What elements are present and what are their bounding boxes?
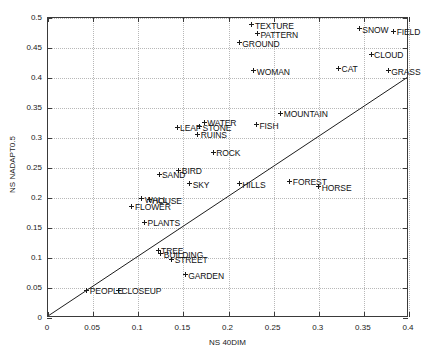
data-point-label: RUINS	[201, 130, 227, 140]
data-point-label: FISH	[259, 121, 278, 131]
data-point-marker	[391, 29, 396, 34]
data-point-label: PLANTS	[148, 218, 180, 228]
y-tick	[47, 318, 52, 319]
y-tick-label: 0.15	[6, 223, 42, 232]
y-tick-label: 0.1	[6, 253, 42, 262]
data-point-label: SAND	[162, 170, 185, 180]
y-tick-label: 0.05	[6, 283, 42, 292]
y-tick-label: 0.4	[6, 73, 42, 82]
y-tick-right	[403, 288, 408, 289]
y-tick	[47, 228, 52, 229]
x-tick-label: 0.4	[402, 323, 413, 332]
x-tick	[229, 312, 230, 317]
x-tick	[48, 312, 49, 317]
data-point-marker	[336, 66, 341, 71]
x-tick-top	[274, 17, 275, 22]
data-point-marker	[254, 122, 259, 127]
x-tick-top	[183, 17, 184, 22]
y-tick	[47, 168, 52, 169]
x-tick-top	[138, 17, 139, 22]
data-point-label: FIELD	[397, 27, 421, 37]
y-tick	[47, 288, 52, 289]
y-tick	[47, 78, 52, 79]
data-point-marker	[175, 125, 180, 130]
data-point-marker	[255, 31, 260, 36]
x-tick-top	[364, 17, 365, 22]
data-point-marker	[369, 52, 374, 57]
y-tick	[47, 108, 52, 109]
data-point-marker	[237, 40, 242, 45]
gridline-vertical	[409, 18, 410, 316]
data-point-marker	[84, 288, 89, 293]
y-tick	[47, 18, 52, 19]
data-point-marker	[142, 220, 147, 225]
y-tick-right	[403, 168, 408, 169]
data-point-marker	[157, 172, 162, 177]
data-point-label: FLOWER	[135, 202, 171, 212]
x-tick-label: 0.35	[355, 323, 371, 332]
x-tick-label: 0.15	[175, 323, 191, 332]
data-point-marker	[211, 150, 216, 155]
data-point-label: HORSE	[322, 183, 352, 193]
x-tick-label: 0.05	[84, 323, 100, 332]
y-axis-label: NS NADAPT0.5	[8, 120, 17, 210]
x-tick-label: 0.3	[312, 323, 323, 332]
x-tick	[409, 312, 410, 317]
y-tick	[47, 48, 52, 49]
data-point-marker	[129, 204, 134, 209]
data-point-marker	[278, 111, 283, 116]
data-point-marker	[156, 248, 161, 253]
y-tick	[47, 138, 52, 139]
data-point-label: MOUNTAIN	[284, 109, 328, 119]
data-point-marker	[237, 181, 242, 186]
x-tick	[274, 312, 275, 317]
data-point-marker	[287, 179, 292, 184]
x-tick	[183, 312, 184, 317]
data-point-label: SNOW	[362, 25, 388, 35]
data-point-marker	[357, 26, 362, 31]
x-tick-label: 0.25	[265, 323, 281, 332]
scatter-plot-figure: TEXTUREPATTERNGROUNDSNOWFIELDCLOUDCATGRA…	[0, 0, 428, 355]
x-tick	[319, 312, 320, 317]
data-point-label: LEAF	[180, 123, 201, 133]
data-series-layer: TEXTUREPATTERNGROUNDSNOWFIELDCLOUDCATGRA…	[48, 18, 407, 316]
data-point-label: CLOUD	[374, 50, 403, 60]
x-tick	[364, 312, 365, 317]
x-axis-label: NS 40DIM	[47, 338, 408, 347]
data-point-label: GROUND	[242, 39, 279, 49]
x-tick-label: 0	[45, 323, 49, 332]
data-point-marker	[249, 22, 254, 27]
y-tick-label: 0.35	[6, 103, 42, 112]
plot-area: TEXTUREPATTERNGROUNDSNOWFIELDCLOUDCATGRA…	[47, 17, 408, 317]
data-point-marker	[183, 272, 188, 277]
y-tick-right	[403, 18, 408, 19]
y-tick-right	[403, 198, 408, 199]
y-tick-label: 0.45	[6, 43, 42, 52]
data-point-label: CLOSEUP	[121, 286, 161, 296]
y-tick	[47, 258, 52, 259]
data-point-marker	[139, 196, 144, 201]
y-tick-label: 0.5	[6, 13, 42, 22]
x-tick	[93, 312, 94, 317]
y-tick-right	[403, 138, 408, 139]
y-tick-right	[403, 78, 408, 79]
data-point-marker	[386, 68, 391, 73]
x-tick-label: 0.1	[132, 323, 143, 332]
data-point-label: PEOPLE	[90, 286, 123, 296]
y-tick-right	[403, 48, 408, 49]
y-tick-right	[403, 258, 408, 259]
x-tick-top	[229, 17, 230, 22]
y-tick-right	[403, 108, 408, 109]
data-point-label: GARDEN	[188, 271, 224, 281]
data-point-label: STREET	[175, 255, 208, 265]
data-point-label: SKY	[193, 180, 210, 190]
data-point-marker	[251, 68, 256, 73]
data-point-label: ROCK	[216, 148, 240, 158]
y-tick-right	[403, 228, 408, 229]
data-point-label: CAT	[342, 64, 358, 74]
x-tick	[138, 312, 139, 317]
y-tick-label: 0	[6, 313, 42, 322]
y-tick	[47, 198, 52, 199]
x-tick-top	[93, 17, 94, 22]
data-point-label: WOMAN	[257, 67, 290, 77]
